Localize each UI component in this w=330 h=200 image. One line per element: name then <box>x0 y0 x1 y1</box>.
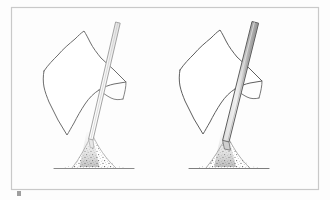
figure-illustration <box>0 0 330 200</box>
scan-smudge <box>17 191 21 196</box>
figure-root <box>0 0 330 200</box>
